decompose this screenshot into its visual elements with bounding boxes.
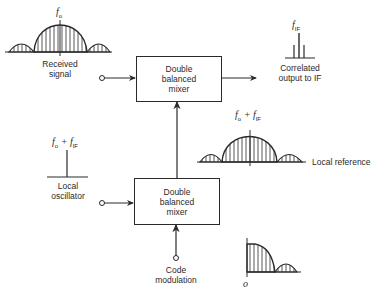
code-input-terminal [174, 256, 179, 261]
bottom-mixer-line1: Double [164, 187, 191, 197]
received-signal-spectrum [5, 20, 112, 56]
output-spectrum [285, 33, 315, 58]
correlated-output-label: Correlated output to IF [268, 63, 332, 83]
received-input-terminal [100, 76, 105, 81]
oscillator-input-terminal [100, 201, 105, 206]
bottom-mixer-line2: balanced [160, 197, 195, 207]
local-reference-spectrum [197, 130, 306, 166]
local-oscillator-spectrum [47, 150, 88, 177]
code-spectrum [247, 238, 301, 277]
bottom-mixer-line3: mixer [167, 207, 188, 217]
top-mixer-line3: mixer [169, 84, 190, 94]
top-mixer-box: Double balanced mixer [136, 56, 222, 102]
top-mixer-line2: balanced [162, 74, 197, 84]
code-origin-label: o [243, 278, 248, 289]
received-signal-label: Received signal [30, 59, 90, 79]
local-reference-label: Local reference [312, 157, 371, 167]
local-reference-freq-label: fo + fIF [235, 109, 261, 125]
local-oscillator-freq-label: fo + fIF [52, 136, 78, 152]
received-freq-label: fo [56, 6, 62, 22]
local-oscillator-label: Local oscillator [38, 181, 98, 201]
code-modulation-label: Code modulation [146, 265, 206, 285]
output-freq-label: fIF [292, 19, 300, 35]
top-mixer-line1: Double [166, 64, 193, 74]
bottom-mixer-box: Double balanced mixer [134, 178, 220, 225]
